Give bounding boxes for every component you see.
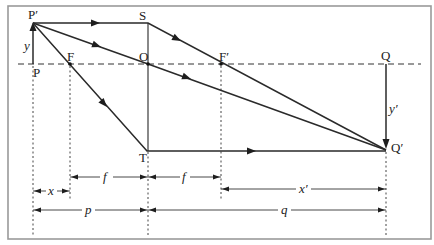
label-q: Q — [381, 48, 391, 63]
diagram-canvas: P′ P F O S T F′ Q Q′ y y′ f f x x′ p q — [0, 0, 434, 245]
label-o: O — [139, 49, 148, 64]
lens-diagram: P′ P F O S T F′ Q Q′ y y′ f f x x′ p q — [0, 0, 434, 245]
label-s: S — [139, 8, 146, 23]
diagram-frame — [8, 6, 431, 239]
label-object-height: y — [22, 38, 30, 53]
label-f: F — [67, 49, 74, 64]
label-q-prime: Q′ — [391, 140, 403, 155]
label-t: T — [139, 150, 147, 165]
label-p-prime: P′ — [28, 7, 38, 22]
label-dim-x-prime: x′ — [298, 181, 308, 196]
label-f-prime: F′ — [219, 49, 229, 64]
label-dim-x: x — [47, 183, 54, 198]
label-dim-p: p — [84, 202, 92, 217]
label-image-height: y′ — [387, 101, 398, 116]
label-dim-q: q — [281, 202, 288, 217]
label-p: P — [33, 65, 40, 80]
